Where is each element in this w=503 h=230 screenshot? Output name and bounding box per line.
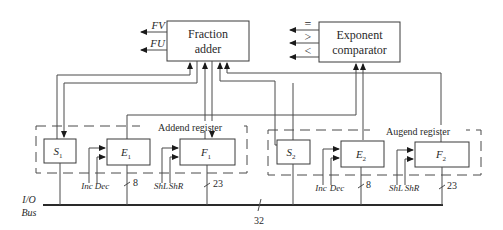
io-bus: 8 23 8 23 32 I/O Bus xyxy=(21,163,457,226)
less-label: < xyxy=(305,44,312,58)
exponent-comparator-label-1: Exponent xyxy=(337,28,384,42)
e2-register: E2 Inc Dec xyxy=(314,141,384,193)
e2-dec-arrow-icon xyxy=(331,158,339,185)
bus-label-1: I/O xyxy=(21,194,35,205)
e1-register: E1 Inc Dec xyxy=(80,139,150,191)
e2-sub: 2 xyxy=(363,155,367,163)
fraction-adder-label-1: Fraction xyxy=(188,27,228,41)
equal-label: = xyxy=(305,17,312,31)
e2-dec-label: Dec xyxy=(329,183,345,193)
e1-dec-label: Dec xyxy=(94,181,110,191)
fraction-adder-outputs: FV FU xyxy=(141,19,167,50)
e1-sub: 1 xyxy=(128,153,132,161)
bus-width-label: 32 xyxy=(254,215,264,226)
f2-width-label: 23 xyxy=(447,180,457,191)
exponent-comparator: Exponent comparator xyxy=(319,22,400,62)
e2-width-label: 8 xyxy=(366,179,371,190)
f2-shl-label: ShL xyxy=(389,183,403,193)
f1-shr-label: ShR xyxy=(169,181,184,191)
f2-shr-label: ShR xyxy=(405,183,420,193)
bus-label-2: Bus xyxy=(22,207,37,218)
f1-shr-arrow-icon xyxy=(170,157,178,183)
s1-sub: 1 xyxy=(59,152,63,160)
exponent-comparator-outputs: = > < xyxy=(290,17,319,58)
s2-sub: 2 xyxy=(292,153,296,161)
e2-inc-label: Inc xyxy=(314,183,327,193)
fraction-adder-label-2: adder xyxy=(195,42,222,56)
fv-label: FV xyxy=(151,19,167,31)
e1-inc-label: Inc xyxy=(80,181,93,191)
addend-register-label: Addend register xyxy=(158,122,223,133)
f1-shl-label: ShL xyxy=(154,181,168,191)
s1-register: S1 xyxy=(44,139,76,163)
f2-sub: 2 xyxy=(443,155,447,163)
f1-sub: 1 xyxy=(208,153,212,161)
augend-register-label: Augend register xyxy=(386,126,451,137)
fu-label: FU xyxy=(149,37,166,49)
e1-width-label: 8 xyxy=(133,177,138,188)
greater-label: > xyxy=(305,30,312,44)
f1-width-label: 23 xyxy=(213,178,223,189)
f2-shr-arrow-icon xyxy=(405,159,413,185)
floating-point-adder-diagram: Fraction adder FV FU Exponent comparator… xyxy=(0,0,503,230)
s2-register: S2 xyxy=(277,140,310,164)
fraction-adder: Fraction adder xyxy=(167,21,249,61)
exponent-comparator-label-2: comparator xyxy=(332,43,387,57)
e1-dec-arrow-icon xyxy=(97,157,105,183)
